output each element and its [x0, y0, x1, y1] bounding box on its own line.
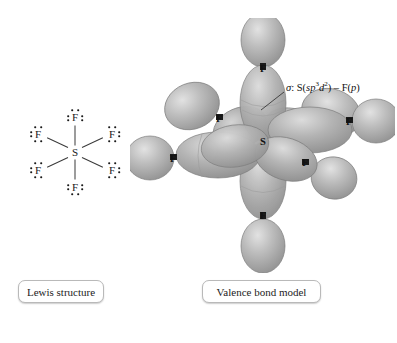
p-orbital-lobe-up [241, 18, 285, 67]
lone-pair-dot [30, 131, 32, 133]
orbital-atom-fluorine-left: F [170, 153, 176, 164]
lone-pair-dot [118, 167, 120, 169]
annotation-donor: S( [297, 82, 306, 93]
lewis-atom-sulfur: S [72, 147, 78, 158]
bond-line-lower-right [82, 157, 103, 168]
lone-pair-dot [34, 140, 36, 142]
lone-pair-dot [67, 188, 69, 190]
valence-bond-model-diagram: S F F F F F F σ: S(sp3d2) – F(p) [130, 18, 395, 273]
lone-pair-dot [118, 135, 120, 137]
bond-line-top [75, 126, 76, 146]
lone-pair-dot [67, 184, 69, 186]
lone-pair-dot [114, 140, 116, 142]
lone-pair-dot [81, 188, 83, 190]
lewis-atom-fluorine-lower-right: F [109, 165, 115, 176]
lone-pair-dot [34, 176, 36, 178]
lewis-atom-fluorine-top: F [72, 112, 78, 123]
annotation-acceptor: F( [342, 82, 351, 93]
caption-valence-bond-label: Valence bond model [217, 286, 307, 298]
lone-pair-dot [81, 119, 83, 121]
lone-pair-dot [40, 176, 42, 178]
orbital-atom-fluorine-up: F [260, 63, 266, 74]
lone-pair-dot [108, 176, 110, 178]
annotation-dash: – [334, 82, 339, 93]
caption-lewis-label: Lewis structure [27, 286, 95, 298]
lone-pair-dot [108, 140, 110, 142]
lone-pair-dot [81, 115, 83, 117]
lewis-atom-fluorine-bottom: F [72, 182, 78, 193]
lone-pair-dot [77, 109, 79, 111]
bond-line-upper-right [82, 137, 103, 148]
caption-valence-bond-model: Valence bond model [202, 280, 321, 303]
lone-pair-dot [71, 109, 73, 111]
orbital-atom-fluorine-down: F [260, 210, 266, 221]
bond-line-upper-left [47, 137, 68, 148]
lone-pair-dot [30, 171, 32, 173]
lewis-atom-fluorine-upper-right: F [109, 129, 115, 140]
lone-pair-dot [81, 184, 83, 186]
lone-pair-dot [67, 119, 69, 121]
annotation-close-paren: ) [328, 82, 332, 93]
lone-pair-dot [71, 193, 73, 195]
lone-pair-dot [67, 115, 69, 117]
bond-line-bottom [75, 160, 76, 180]
lewis-atom-fluorine-upper-left: F [35, 129, 41, 140]
lone-pair-dot [114, 162, 116, 164]
orbital-atom-fluorine-right: F [346, 116, 352, 127]
lone-pair-dot [40, 140, 42, 142]
p-orbital-lobe-right [352, 99, 395, 143]
bond-line-lower-left [47, 157, 68, 168]
lone-pair-dot [40, 162, 42, 164]
orbital-atom-fluorine-front-right: F [302, 157, 308, 168]
lone-pair-dot [114, 126, 116, 128]
lone-pair-dot [118, 131, 120, 133]
chemistry-figure: S F F F F F [0, 0, 397, 343]
lone-pair-dot [114, 176, 116, 178]
orbital-atom-sulfur: S [260, 136, 266, 147]
sigma-bond-annotation: σ: S(sp3d2) – F(p) [286, 80, 360, 93]
p-orbital-lobe-down [241, 219, 285, 273]
orbital-atom-fluorine-back-left: F [216, 113, 222, 124]
p-orbital-lobe-left [130, 136, 174, 180]
lewis-structure-diagram: S F F F F F [28, 105, 123, 200]
lone-pair-dot [30, 167, 32, 169]
annotation-colon: : [291, 82, 294, 93]
lewis-atom-fluorine-lower-left: F [35, 165, 41, 176]
annotation-acceptor-close: ) [356, 82, 360, 93]
lone-pair-dot [108, 162, 110, 164]
lone-pair-dot [108, 126, 110, 128]
lone-pair-dot [40, 126, 42, 128]
lone-pair-dot [34, 162, 36, 164]
lone-pair-dot [77, 193, 79, 195]
lone-pair-dot [34, 126, 36, 128]
lone-pair-dot [30, 135, 32, 137]
caption-lewis-structure: Lewis structure [18, 280, 104, 303]
lone-pair-dot [118, 171, 120, 173]
